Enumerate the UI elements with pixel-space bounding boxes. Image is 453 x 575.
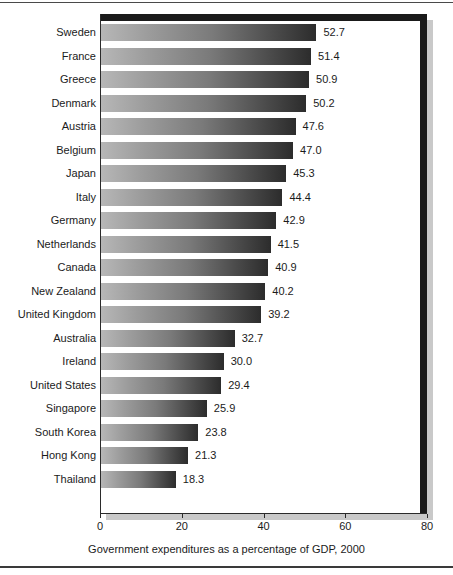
category-label: Hong Kong xyxy=(41,447,96,464)
category-label: Thailand xyxy=(54,471,96,488)
x-tick-label: 20 xyxy=(176,520,188,532)
category-label: Singapore xyxy=(46,400,96,417)
bar xyxy=(101,400,207,417)
bar-value-label: 42.9 xyxy=(283,212,304,229)
bar-row: Sweden52.7 xyxy=(0,24,453,48)
bar-row: United States29.4 xyxy=(0,377,453,401)
bar-value-label: 45.3 xyxy=(293,165,314,182)
bar xyxy=(101,236,271,253)
category-label: Japan xyxy=(66,165,96,182)
bar xyxy=(101,259,268,276)
x-tick xyxy=(427,514,428,518)
bar-value-label: 47.0 xyxy=(300,142,321,159)
bar xyxy=(101,71,309,88)
bar xyxy=(101,283,265,300)
bar-value-label: 40.9 xyxy=(275,259,296,276)
bar xyxy=(101,189,282,206)
bar-value-label: 50.9 xyxy=(316,71,337,88)
x-tick xyxy=(182,514,183,518)
x-tick xyxy=(100,514,101,518)
bar-row: Austria47.6 xyxy=(0,118,453,142)
x-tick-label: 0 xyxy=(97,520,103,532)
bar-row: Belgium47.0 xyxy=(0,142,453,166)
bar xyxy=(101,424,198,441)
bar xyxy=(101,142,293,159)
category-label: Denmark xyxy=(51,95,96,112)
bar-row: Japan45.3 xyxy=(0,165,453,189)
x-tick-label: 60 xyxy=(339,520,351,532)
bar-row: South Korea23.8 xyxy=(0,424,453,448)
category-label: Sweden xyxy=(56,24,96,41)
bar xyxy=(101,306,261,323)
category-label: Netherlands xyxy=(37,236,96,253)
bar-value-label: 44.4 xyxy=(289,189,310,206)
bar-row: New Zealand40.2 xyxy=(0,283,453,307)
bar-row: Ireland30.0 xyxy=(0,353,453,377)
category-label: Austria xyxy=(62,118,96,135)
bar xyxy=(101,353,224,370)
bar-value-label: 18.3 xyxy=(183,471,204,488)
bar-value-label: 25.9 xyxy=(214,400,235,417)
bar-chart-figure: Sweden52.7France51.4Greece50.9Denmark50.… xyxy=(0,0,453,575)
bar xyxy=(101,447,188,464)
category-label: United States xyxy=(30,377,96,394)
x-tick-label: 40 xyxy=(257,520,269,532)
bar-value-label: 50.2 xyxy=(313,95,334,112)
category-label: New Zealand xyxy=(31,283,96,300)
bar-value-label: 21.3 xyxy=(195,447,216,464)
bar xyxy=(101,330,235,347)
bar-row: Netherlands41.5 xyxy=(0,236,453,260)
bar xyxy=(101,95,306,112)
bar-row: Germany42.9 xyxy=(0,212,453,236)
bar-row: Hong Kong21.3 xyxy=(0,447,453,471)
bar-value-label: 51.4 xyxy=(318,48,339,65)
bar-value-label: 41.5 xyxy=(278,236,299,253)
category-label: France xyxy=(62,48,96,65)
bar-row: Greece50.9 xyxy=(0,71,453,95)
bar-value-label: 40.2 xyxy=(272,283,293,300)
bar xyxy=(101,118,296,135)
bar-value-label: 32.7 xyxy=(242,330,263,347)
category-label: United Kingdom xyxy=(18,306,96,323)
bar xyxy=(101,24,316,41)
bar-row: Denmark50.2 xyxy=(0,95,453,119)
category-label: Italy xyxy=(76,189,96,206)
page-rule-bottom xyxy=(0,566,453,568)
bar-row: Thailand18.3 xyxy=(0,471,453,495)
bar-row: Canada40.9 xyxy=(0,259,453,283)
category-label: Canada xyxy=(57,259,96,276)
category-label: South Korea xyxy=(35,424,96,441)
x-axis-title: Government expenditures as a percentage … xyxy=(0,543,453,555)
bar-row: Australia32.7 xyxy=(0,330,453,354)
bar-rows: Sweden52.7France51.4Greece50.9Denmark50.… xyxy=(0,24,453,494)
bar xyxy=(101,471,176,488)
x-tick-label: 80 xyxy=(421,520,433,532)
category-label: Ireland xyxy=(62,353,96,370)
bar-value-label: 39.2 xyxy=(268,306,289,323)
bar-value-label: 23.8 xyxy=(205,424,226,441)
bar-row: Singapore25.9 xyxy=(0,400,453,424)
bar-value-label: 29.4 xyxy=(228,377,249,394)
bar xyxy=(101,212,276,229)
x-tick xyxy=(345,514,346,518)
category-label: Belgium xyxy=(56,142,96,159)
bar xyxy=(101,48,311,65)
x-tick xyxy=(264,514,265,518)
bar-value-label: 52.7 xyxy=(323,24,344,41)
bar xyxy=(101,165,286,182)
page-rule-top xyxy=(0,2,453,3)
bar-value-label: 47.6 xyxy=(303,118,324,135)
bar-value-label: 30.0 xyxy=(231,353,252,370)
bar-row: United Kingdom39.2 xyxy=(0,306,453,330)
category-label: Greece xyxy=(60,71,96,88)
bar-row: Italy44.4 xyxy=(0,189,453,213)
category-label: Germany xyxy=(51,212,96,229)
category-label: Australia xyxy=(53,330,96,347)
bar-row: France51.4 xyxy=(0,48,453,72)
bar xyxy=(101,377,221,394)
